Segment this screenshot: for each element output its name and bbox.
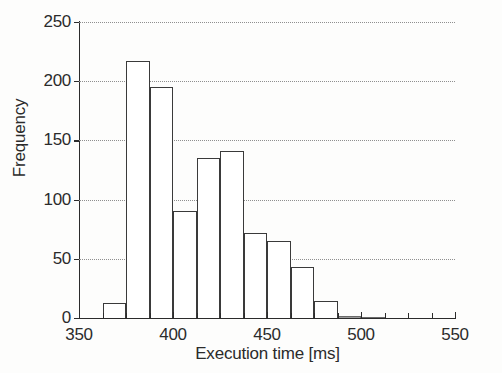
- x-tick-512.5: [385, 313, 386, 318]
- histogram-bar: [291, 267, 315, 318]
- histogram-bar: [244, 233, 268, 318]
- y-tick-50: [74, 259, 79, 260]
- y-tick-label-100: 100: [44, 190, 71, 210]
- x-tick-425: [220, 313, 221, 318]
- x-tick-387.5: [150, 313, 151, 318]
- y-tick-label-250: 250: [44, 12, 71, 32]
- x-tick-550: [455, 312, 456, 318]
- histogram-bar: [173, 211, 197, 318]
- x-tick-487.5: [338, 313, 339, 318]
- x-tick-412.5: [197, 313, 198, 318]
- x-tick-437.5: [244, 313, 245, 318]
- histogram-bar: [314, 301, 338, 318]
- y-tick-200: [74, 81, 79, 82]
- y-tick-label-50: 50: [53, 249, 71, 269]
- histogram-bar: [126, 61, 150, 318]
- x-tick-525: [408, 313, 409, 318]
- x-tick-label-450: 450: [253, 325, 280, 345]
- histogram-bar: [103, 303, 127, 318]
- y-axis-tick-labels: 050100150200250: [0, 22, 71, 318]
- x-tick-label-350: 350: [65, 325, 92, 345]
- x-tick-350: [79, 312, 80, 318]
- y-tick-label-200: 200: [44, 71, 71, 91]
- x-tick-400: [173, 312, 174, 318]
- histogram-bar: [197, 158, 221, 318]
- histogram-bar: [220, 151, 244, 318]
- histogram-bar: [267, 241, 291, 318]
- x-axis-label: Execution time [ms]: [79, 344, 456, 364]
- x-tick-450: [267, 312, 268, 318]
- x-tick-label-400: 400: [159, 325, 186, 345]
- x-tick-375: [126, 313, 127, 318]
- gridline-y-250: [79, 22, 455, 23]
- x-tick-500: [361, 312, 362, 318]
- y-tick-label-150: 150: [44, 130, 71, 150]
- plot-area: [79, 22, 455, 318]
- y-tick-100: [74, 200, 79, 201]
- x-tick-label-500: 500: [347, 325, 374, 345]
- x-tick-362.5: [103, 313, 104, 318]
- y-tick-250: [74, 22, 79, 23]
- x-tick-462.5: [291, 313, 292, 318]
- x-tick-537.5: [432, 313, 433, 318]
- x-tick-475: [314, 313, 315, 318]
- histogram-figure: Frequency 050100150200250 35040045050055…: [0, 0, 502, 373]
- histogram-bar: [150, 87, 174, 318]
- y-tick-150: [74, 140, 79, 141]
- x-tick-label-550: 550: [441, 325, 468, 345]
